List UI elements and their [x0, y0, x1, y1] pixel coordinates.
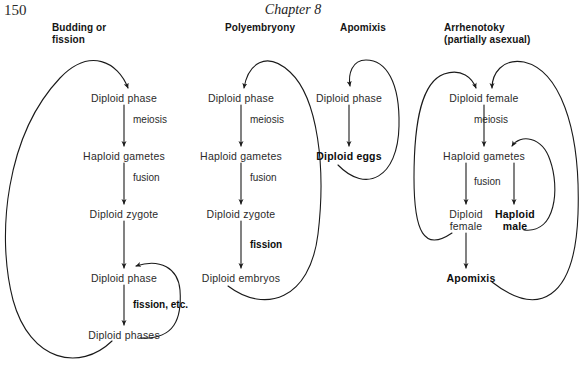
node-diploid-zygote: Diploid zygote	[207, 208, 276, 220]
heading-line: (partially asexual)	[444, 34, 530, 46]
node-haploid-male-line1: Haploid	[495, 208, 535, 220]
node-haploid-gametes: Haploid gametes	[83, 150, 165, 162]
node-diploid-female: Diploid female	[449, 92, 518, 104]
node-diploid-female-2-line1: Diploid	[449, 208, 483, 220]
node-haploid-male-line2: male	[503, 220, 528, 232]
edge-label-meiosis: meiosis	[133, 114, 167, 125]
node-diploid-embryos: Diploid embryos	[202, 272, 280, 284]
node-diploid-phases: Diploid phases	[88, 329, 160, 341]
node-diploid-female-2-line2: female	[450, 220, 483, 232]
node-haploid-gametes: Haploid gametes	[200, 150, 282, 162]
edge-label-fission: fission	[250, 239, 282, 250]
edge-label-fission-etc: fission, etc.	[133, 299, 188, 310]
node-diploid-zygote: Diploid zygote	[90, 208, 159, 220]
edge-label-meiosis: meiosis	[250, 114, 284, 125]
node-apomixis: Apomixis	[447, 272, 496, 284]
page-canvas: 150 Chapter 8	[0, 0, 586, 368]
column-heading-apomixis: Apomixis	[340, 22, 386, 34]
heading-line: Apomixis	[340, 22, 386, 34]
edge-label-fusion: fusion	[250, 172, 277, 183]
heading-line: fission	[52, 34, 106, 46]
edge-label-fusion: fusion	[133, 172, 160, 183]
edge-label-meiosis: meiosis	[474, 114, 508, 125]
heading-line: Polyembryony	[225, 22, 295, 34]
edge-label-fusion: fusion	[474, 176, 501, 187]
column-heading-arrhenotoky: Arrhenotoky (partially asexual)	[444, 22, 530, 46]
heading-line: Budding or	[52, 22, 106, 34]
column-heading-budding: Budding or fission	[52, 22, 106, 46]
node-diploid-phase: Diploid phase	[316, 92, 382, 104]
node-diploid-phase: Diploid phase	[208, 92, 274, 104]
heading-line: Arrhenotoky	[444, 22, 530, 34]
node-diploid-eggs: Diploid eggs	[316, 150, 381, 162]
column-heading-polyembryony: Polyembryony	[225, 22, 295, 34]
node-diploid-phase-2: Diploid phase	[91, 272, 157, 284]
node-diploid-phase: Diploid phase	[91, 92, 157, 104]
node-haploid-gametes: Haploid gametes	[443, 150, 525, 162]
